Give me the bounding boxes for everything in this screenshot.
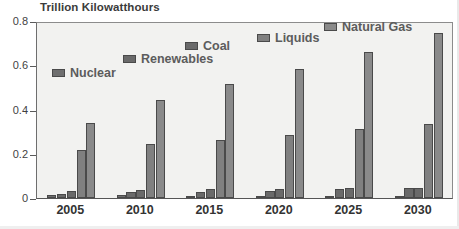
legend-swatch-icon — [257, 34, 270, 42]
x-axis-tick-label-2005: 2005 — [40, 203, 100, 217]
y-axis-tick-label: 0.2 — [0, 149, 28, 160]
bar-renewables-2030 — [404, 188, 413, 198]
legend-entry-nuclear: Nuclear — [52, 67, 116, 80]
legend-swatch-icon — [52, 69, 65, 77]
bar-nuclear-2005 — [47, 195, 56, 198]
bar-coal-2005 — [67, 191, 76, 198]
legend-label: Nuclear — [70, 67, 116, 80]
bar-natural-gas-2010 — [156, 100, 165, 198]
bar-natural-gas-2015 — [225, 84, 234, 198]
bar-nuclear-2030 — [395, 196, 404, 198]
legend-swatch-icon — [185, 42, 198, 50]
bar-renewables-2010 — [126, 192, 135, 198]
x-axis-tick-label-2020: 2020 — [249, 203, 309, 217]
y-axis-tick-label: 0.6 — [0, 60, 28, 71]
bar-coal-2010 — [136, 190, 145, 198]
bar-coal-2030 — [414, 188, 423, 198]
bar-nuclear-2025 — [325, 196, 334, 198]
x-axis-tick-label-2030: 2030 — [388, 203, 448, 217]
bar-liquids-2005 — [77, 150, 86, 198]
legend-swatch-icon — [324, 23, 337, 31]
scan-edge-bottom — [0, 226, 459, 229]
legend-entry-liquids: Liquids — [257, 32, 319, 45]
bar-liquids-2010 — [146, 144, 155, 198]
chart-figure: Trillion Kilowatthours 0.80.60.40.20 Nuc… — [0, 0, 459, 229]
bar-coal-2020 — [275, 189, 284, 198]
legend-entry-renewables: Renewables — [123, 53, 213, 66]
bar-nuclear-2020 — [256, 196, 265, 198]
bar-nuclear-2015 — [186, 196, 195, 198]
bar-renewables-2020 — [265, 191, 274, 198]
legend-swatch-icon — [123, 55, 136, 63]
bar-liquids-2025 — [355, 129, 364, 198]
legend-label: Natural Gas — [342, 21, 412, 34]
x-axis-tick-label-2025: 2025 — [318, 203, 378, 217]
bar-nuclear-2010 — [117, 195, 126, 198]
bar-renewables-2005 — [57, 194, 66, 198]
x-axis-tick-label-2010: 2010 — [110, 203, 170, 217]
y-axis-tick-label: 0.4 — [0, 105, 28, 116]
plot-area: NuclearRenewablesCoalLiquidsNatural Gas — [36, 22, 453, 199]
bar-renewables-2015 — [196, 192, 205, 198]
legend-label: Coal — [203, 40, 230, 53]
bar-coal-2025 — [345, 188, 354, 198]
legend-entry-natural-gas: Natural Gas — [324, 21, 412, 34]
legend-entry-coal: Coal — [185, 40, 230, 53]
bar-coal-2015 — [206, 189, 215, 198]
bar-liquids-2030 — [424, 124, 433, 198]
x-axis-tick-label-2015: 2015 — [179, 203, 239, 217]
legend-label: Liquids — [275, 32, 319, 45]
bar-natural-gas-2020 — [295, 69, 304, 198]
legend-label: Renewables — [141, 53, 213, 66]
bar-natural-gas-2025 — [364, 52, 373, 198]
bar-liquids-2015 — [216, 140, 225, 198]
bar-natural-gas-2030 — [434, 33, 443, 198]
bar-natural-gas-2005 — [86, 123, 95, 198]
bar-liquids-2020 — [285, 135, 294, 198]
chart-title: Trillion Kilowatthours — [40, 1, 160, 13]
y-axis-tick-label: 0.8 — [0, 16, 28, 27]
y-axis-tick — [30, 199, 36, 200]
bar-renewables-2025 — [335, 189, 344, 198]
y-axis-tick-label: 0 — [0, 193, 28, 204]
